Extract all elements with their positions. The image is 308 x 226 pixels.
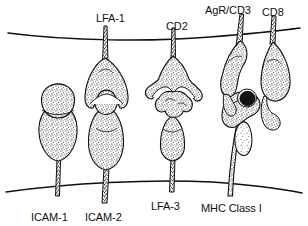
molecule-lfa-1 (85, 26, 128, 108)
molecule-lfa-3 (155, 91, 192, 192)
bottom-membrane (6, 181, 302, 193)
label-agr-cd3: AgR/CD3 (205, 4, 251, 16)
label-cd2: CD2 (166, 20, 188, 32)
molecule-cd8 (261, 16, 290, 130)
peptide-ellipse (238, 89, 257, 107)
label-lfa-3: LFA-3 (151, 200, 180, 212)
label-mhc-class-i: MHC Class I (201, 202, 262, 214)
top-membrane (8, 28, 300, 40)
label-icam-2: ICAM-2 (85, 211, 122, 223)
molecule-icam-1 (39, 84, 77, 196)
diagram-canvas (0, 0, 308, 226)
label-icam-1: ICAM-1 (31, 211, 68, 223)
label-cd8: CD8 (262, 6, 284, 18)
cell-adhesion-diagram: LFA-1 CD2 AgR/CD3 CD8 ICAM-1 ICAM-2 LFA-… (0, 0, 308, 226)
label-lfa-1: LFA-1 (96, 12, 125, 24)
